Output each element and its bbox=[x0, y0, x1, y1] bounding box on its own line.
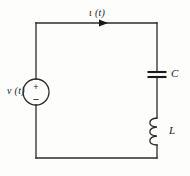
current-direction-arrow-icon bbox=[99, 20, 108, 27]
inductor-coil-icon bbox=[150, 118, 157, 145]
capacitor-label: C bbox=[171, 68, 178, 79]
circuit-schematic-canvas bbox=[0, 0, 190, 176]
current-label: ι (t) bbox=[89, 8, 105, 18]
inductor-label: L bbox=[169, 125, 175, 136]
voltage-source-minus-terminal: − bbox=[31, 94, 41, 105]
circuit-diagram-figure: ι (t) v (t) + − C L bbox=[0, 0, 190, 176]
voltage-source-label: v (t) bbox=[7, 86, 25, 96]
voltage-source-plus-terminal: + bbox=[31, 83, 41, 92]
